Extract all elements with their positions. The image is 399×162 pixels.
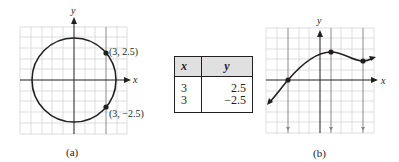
figure-a-caption: (a) xyxy=(66,146,78,158)
table-cell-y: −2.5 xyxy=(202,94,253,113)
figure-b-axes xyxy=(266,30,378,133)
point-marker xyxy=(285,77,290,82)
table-cell-x: 3 xyxy=(175,94,202,113)
table-cell-x: 3 xyxy=(175,77,202,95)
point-marker xyxy=(360,58,365,63)
figure-a-point-label-upper: (3, 2.5) xyxy=(109,46,138,58)
table-header-x: x xyxy=(175,57,202,77)
y-axis-arrow-icon xyxy=(317,30,323,37)
point-marker xyxy=(103,104,108,109)
figure-a-y-label: y xyxy=(70,5,76,16)
table-header-row: x y xyxy=(175,57,253,77)
x-axis-arrow-icon xyxy=(124,77,131,83)
figure-a-x-label: x xyxy=(132,74,138,85)
table-row: 3 2.5 xyxy=(175,77,253,95)
x-axis-arrow-icon xyxy=(371,77,378,83)
xy-table: x y 3 2.5 3 −2.5 xyxy=(174,56,253,113)
table-cell-y: 2.5 xyxy=(202,77,253,95)
y-axis-arrow-icon xyxy=(71,17,77,24)
figure-b-curve xyxy=(269,52,373,103)
figure-a-point-label-lower: (3, −2.5) xyxy=(109,108,144,120)
figure-b-y-label: y xyxy=(316,15,322,26)
figure-b-caption: (b) xyxy=(313,147,326,159)
point-marker xyxy=(103,50,108,55)
table-header-y: y xyxy=(202,57,253,77)
figure-b-x-label: x xyxy=(380,75,386,86)
table-row: 3 −2.5 xyxy=(175,94,253,113)
point-marker xyxy=(328,49,333,54)
